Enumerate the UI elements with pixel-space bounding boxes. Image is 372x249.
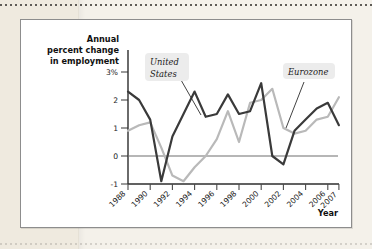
x-tick-label-1990: 1990	[130, 189, 150, 209]
eurozone-callout-label: Eurozone	[287, 67, 328, 77]
employment-line-chart: Annual percent change in employment 3% 2…	[21, 20, 351, 227]
x-tick-label-2004: 2004	[285, 189, 305, 209]
y-axis-title-line1: Annual	[87, 34, 119, 44]
y-tick-label-0: 0	[113, 152, 118, 161]
y-axis-title-line2: percent change	[47, 45, 119, 55]
eurozone-callout: Eurozone	[283, 63, 335, 79]
y-tick-label-2: 2	[113, 96, 118, 105]
x-tick-label-1996: 1996	[196, 189, 216, 209]
y-tick-marks	[121, 72, 128, 184]
united-states-callout-line1: United	[150, 57, 179, 67]
x-axis-title: Year	[317, 208, 339, 218]
united-states-callout: United States	[145, 53, 189, 81]
y-axis-title-line3: in employment	[50, 56, 119, 66]
x-tick-labels: 1988 1990 1992 1994 1996 1998 2000 2002 …	[107, 189, 339, 210]
figure-card: Annual percent change in employment 3% 2…	[20, 19, 352, 228]
eurozone-callout-leader	[286, 82, 304, 128]
united-states-callout-line2: States	[150, 69, 177, 79]
y-tick-label-neg1: -1	[110, 180, 118, 189]
dotted-rule-top	[0, 4, 372, 6]
x-tick-label-1998: 1998	[218, 189, 238, 209]
x-tick-label-1994: 1994	[174, 189, 194, 209]
x-tick-label-1992: 1992	[152, 189, 172, 209]
united-states-line	[128, 83, 339, 181]
x-tick-marks	[128, 184, 339, 190]
dotted-rule-bottom	[0, 243, 372, 245]
x-tick-label-1988: 1988	[107, 189, 127, 209]
x-tick-label-2000: 2000	[241, 189, 261, 209]
y-tick-label-1: 1	[113, 124, 118, 133]
x-tick-label-2002: 2002	[263, 189, 283, 209]
y-tick-label-3: 3%	[106, 68, 118, 77]
page-background: Annual percent change in employment 3% 2…	[0, 0, 372, 249]
